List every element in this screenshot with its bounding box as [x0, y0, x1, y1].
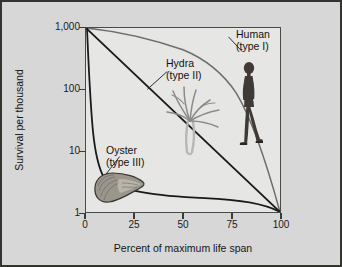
x-tick-mark-25 — [133, 213, 135, 219]
human-walking-illustration — [234, 61, 268, 147]
annotation-hydra-line1: Hydra — [166, 57, 194, 69]
annotation-human-line2: (type I) — [236, 41, 270, 53]
x-tick-mark-50 — [182, 213, 184, 219]
annotation-human: Human(type I) — [236, 29, 270, 52]
y-tick-label-1000: 1,000 — [40, 22, 80, 32]
annotation-hydra-line2: (type II) — [166, 70, 202, 82]
x-tick-label-100: 100 — [273, 220, 290, 230]
x-tick-label-75: 75 — [226, 220, 237, 230]
x-axis-title: Percent of maximum life span — [85, 242, 281, 254]
annotation-hydra: Hydra(type II) — [166, 58, 202, 81]
x-tick-label-25: 25 — [128, 220, 139, 230]
annotation-oyster-line2: (type III) — [106, 157, 145, 169]
oyster-shell-illustration — [89, 171, 147, 205]
plot-area — [85, 27, 281, 213]
x-tick-mark-75 — [231, 213, 233, 219]
x-tick-mark-100 — [280, 213, 282, 219]
x-tick-label-0: 0 — [82, 220, 88, 230]
x-tick-label-50: 50 — [177, 220, 188, 230]
annotation-oyster: Oyster(type III) — [106, 145, 145, 168]
x-tick-mark-0 — [84, 213, 86, 219]
figure-container: 1,000 100 10 1 0 25 50 75 100 Survival p… — [0, 0, 342, 267]
y-tick-label-100: 100 — [40, 84, 80, 94]
y-axis-title: Survival per thousand — [12, 27, 26, 213]
hydra-illustration — [155, 81, 229, 157]
y-tick-label-1: 1 — [40, 208, 80, 218]
y-tick-label-10: 10 — [40, 146, 80, 156]
annotation-oyster-line1: Oyster — [106, 144, 137, 156]
annotation-human-line1: Human — [236, 28, 270, 40]
